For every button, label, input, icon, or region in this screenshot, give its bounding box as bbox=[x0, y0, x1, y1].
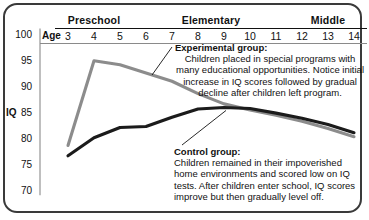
annotation-experimental: Experimental group: Children placed in s… bbox=[175, 42, 365, 99]
annotation-control: Control group: Children remained in thei… bbox=[174, 146, 364, 203]
annotation-control-header: Control group: bbox=[174, 146, 364, 157]
chart-figure: Preschool Elementary Middle Age IQ 100 9… bbox=[0, 0, 369, 220]
annotation-experimental-header: Experimental group: bbox=[175, 42, 365, 53]
annotation-control-body: Children remained in their impoverished … bbox=[174, 157, 364, 203]
annotation-experimental-body: Children placed in special programs with… bbox=[175, 53, 365, 99]
